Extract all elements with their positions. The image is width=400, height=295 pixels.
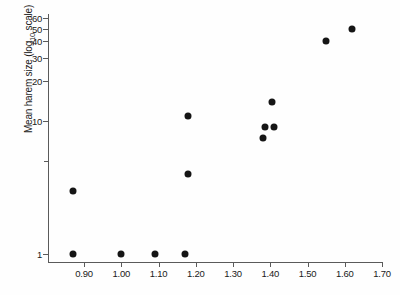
x-axis-tick-label: 1.20 [187, 268, 204, 279]
data-point [270, 124, 277, 131]
data-point [269, 98, 276, 105]
y-axis-tick [43, 41, 48, 42]
y-axis-line [48, 14, 49, 263]
data-point [261, 124, 268, 131]
data-point [118, 251, 125, 258]
x-axis-line [48, 262, 382, 263]
data-point [69, 251, 76, 258]
chart-figure: Mean harem size (log10 scale) 0.901.001.… [0, 0, 400, 295]
y-axis-tick-label: 40 [32, 36, 42, 47]
x-axis-tick [196, 262, 197, 267]
data-point [349, 25, 356, 32]
y-axis-tick-label: 60 [32, 13, 42, 24]
x-axis-tick-label: 1.10 [150, 268, 167, 279]
x-axis-tick-label: 1.50 [299, 268, 316, 279]
x-axis-tick [382, 262, 383, 267]
x-axis-tick-label: 1.30 [224, 268, 241, 279]
y-axis-tick-label: 50 [32, 23, 42, 34]
scatter-plot: Mean harem size (log10 scale) 0.901.001.… [0, 0, 400, 295]
y-axis-tick [43, 254, 48, 255]
y-axis-tick [43, 121, 48, 122]
y-axis-tick-label: 20 [32, 76, 42, 87]
x-axis-tick-label: 0.90 [75, 268, 92, 279]
y-axis-tick-label: 1 [37, 249, 42, 260]
x-axis-tick [345, 262, 346, 267]
x-axis-tick [159, 262, 160, 267]
x-axis-tick [233, 262, 234, 267]
y-axis-tick [43, 29, 48, 30]
data-point [181, 251, 188, 258]
y-axis-tick [43, 18, 48, 19]
y-axis-minor-tick [44, 161, 48, 162]
data-point [185, 112, 192, 119]
y-axis-tick [43, 58, 48, 59]
y-axis-tick-label: 30 [32, 52, 42, 63]
x-axis-tick [308, 262, 309, 267]
y-axis-tick [43, 81, 48, 82]
x-axis-tick-label: 1.00 [113, 268, 130, 279]
data-point [259, 134, 266, 141]
data-point [69, 187, 76, 194]
x-axis-tick-label: 1.70 [373, 268, 390, 279]
data-point [323, 38, 330, 45]
x-axis-tick-label: 1.60 [336, 268, 353, 279]
x-axis-tick [270, 262, 271, 267]
y-axis-tick-label: 10 [32, 116, 42, 127]
x-axis-tick [121, 262, 122, 267]
x-axis-tick-label: 1.40 [262, 268, 279, 279]
x-axis-tick [84, 262, 85, 267]
data-point [185, 171, 192, 178]
data-point [151, 251, 158, 258]
